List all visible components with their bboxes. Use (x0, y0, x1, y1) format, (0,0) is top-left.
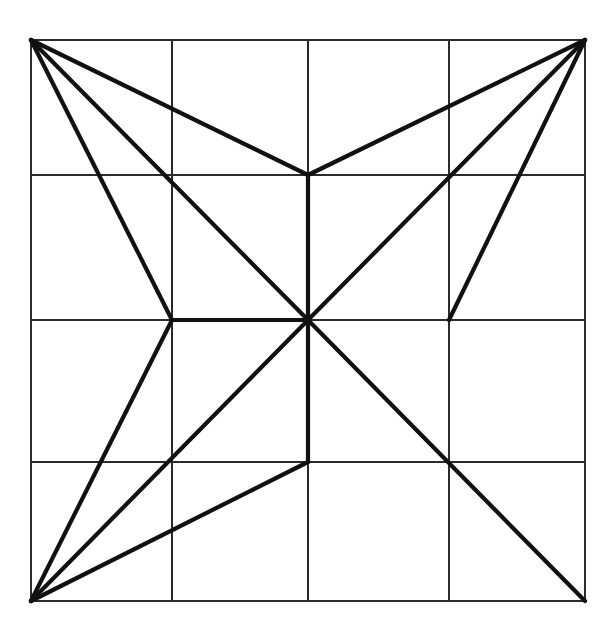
geometric-figure-svg (0, 0, 616, 637)
figure-canvas (0, 0, 616, 637)
